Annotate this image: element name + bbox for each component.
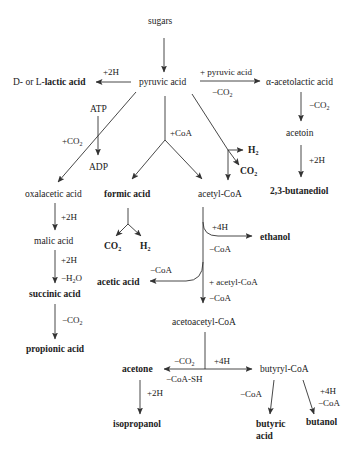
node-2-3-butanediol: 2,3-butanediol bbox=[270, 186, 329, 196]
label-minus-coa-acetic: −CoA bbox=[150, 265, 173, 275]
node-butyryl-coa: butyryl-CoA bbox=[260, 364, 309, 374]
node-formic-acid: formic acid bbox=[104, 189, 151, 199]
node-butanol: butanol bbox=[306, 417, 338, 427]
arrow-to-acetyl-coa bbox=[165, 140, 202, 179]
arrow-butyryl-butyric bbox=[270, 380, 274, 414]
node-formic-h2: H2 bbox=[140, 241, 150, 252]
label-plus-4h-butyryl: +4H bbox=[214, 356, 231, 366]
label-plus-2h-isopropanol: +2H bbox=[147, 388, 164, 398]
arrow-to-co2 bbox=[228, 150, 239, 165]
label-plus-co2-oxalacetic: +CO2 bbox=[62, 136, 83, 147]
node-acetolactic-acid: α-acetolactic acid bbox=[266, 77, 333, 87]
node-lactic-acid: D- or L-lactic acid bbox=[13, 77, 86, 87]
node-succinic-acid: succinic acid bbox=[29, 289, 81, 299]
label-minus-co2-acetoin: −CO2 bbox=[309, 100, 330, 111]
node-atp: ATP bbox=[90, 104, 107, 114]
label-plus-2h-lactic: +2H bbox=[103, 67, 120, 77]
node-acetoin: acetoin bbox=[286, 128, 314, 138]
node-pyruvic-acid: pyruvic acid bbox=[139, 77, 186, 87]
label-minus-coa-ethanol: −CoA bbox=[209, 244, 232, 254]
label-plus-4h-ethanol: +4H bbox=[212, 222, 229, 232]
line-pyruvic-direct bbox=[192, 94, 228, 150]
node-butyric-acid-2: acid bbox=[256, 431, 274, 441]
node-sugars: sugars bbox=[148, 16, 173, 26]
node-butyric-acid-1: butyric bbox=[256, 419, 286, 429]
node-formic-co2: CO2 bbox=[104, 241, 121, 252]
label-minus-coa-butyric: −CoA bbox=[240, 389, 263, 399]
label-plus-coa: +CoA bbox=[170, 128, 193, 138]
label-plus-pyruvic: + pyruvic acid bbox=[200, 67, 253, 77]
arrow-formic-h2 bbox=[128, 224, 141, 236]
label-minus-co2-propionic: −CO2 bbox=[62, 315, 83, 326]
label-plus-2h-malic: +2H bbox=[61, 212, 78, 222]
fermentation-pathway-diagram: sugars pyruvic acid +2H D- or L-lactic a… bbox=[0, 0, 360, 455]
node-adp: ADP bbox=[89, 162, 108, 172]
label-minus-h2o: −H2O bbox=[61, 273, 83, 284]
label-plus-2h-succinic: +2H bbox=[61, 255, 78, 265]
node-propionic-acid: propionic acid bbox=[26, 344, 85, 354]
node-co2: CO2 bbox=[240, 166, 257, 177]
label-plus-acetyl-coa: + acetyl-CoA bbox=[209, 277, 258, 287]
label-minus-co2-acetone: −CO2 bbox=[174, 356, 195, 367]
label-minus-coa-sh: −CoA-SH bbox=[166, 374, 203, 384]
arrow-formic-co2 bbox=[116, 224, 128, 236]
arrow-to-formic bbox=[132, 140, 165, 179]
node-isopropanol: isopropanol bbox=[113, 419, 161, 429]
node-oxalacetic-acid: oxalacetic acid bbox=[25, 189, 82, 199]
node-malic-acid: malic acid bbox=[34, 236, 74, 246]
node-acetic-acid: acetic acid bbox=[97, 277, 140, 287]
node-acetone: acetone bbox=[122, 364, 153, 374]
label-minus-coa-acetoacetyl: −CoA bbox=[209, 293, 232, 303]
node-acetyl-coa: acetyl-CoA bbox=[198, 189, 242, 199]
label-plus-2h-butanediol: +2H bbox=[309, 155, 326, 165]
node-acetoacetyl-coa: acetoacetyl-CoA bbox=[172, 317, 236, 327]
label-plus-4h-butanol: +4H bbox=[320, 386, 337, 396]
node-ethanol: ethanol bbox=[260, 232, 290, 242]
label-minus-co2-acetolactic: −CO2 bbox=[212, 87, 233, 98]
arrow-butyryl-butanol bbox=[303, 380, 314, 414]
node-h2: H2 bbox=[248, 145, 258, 156]
label-minus-coa-butanol: −CoA bbox=[318, 398, 341, 408]
